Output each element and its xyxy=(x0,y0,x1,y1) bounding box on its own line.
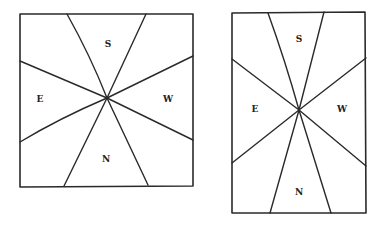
label-s: S xyxy=(105,39,112,49)
rectangle-compass-diagram: S E W N xyxy=(232,12,366,213)
ray-right-upper xyxy=(299,58,366,110)
label-e: E xyxy=(252,104,259,114)
ray-top-left xyxy=(268,13,299,110)
ray-top-right xyxy=(299,12,324,110)
ray-left-upper xyxy=(232,59,299,110)
ray-bottom-left xyxy=(64,98,107,186)
square-compass-diagram: S E W N xyxy=(20,14,193,187)
ray-bottom-right xyxy=(299,110,331,213)
label-s: S xyxy=(296,34,303,44)
label-w: W xyxy=(336,104,348,114)
label-n: N xyxy=(102,154,110,164)
ray-right-lower xyxy=(299,110,366,166)
ray-top-right xyxy=(107,14,146,98)
ray-bottom-right xyxy=(107,98,148,185)
compass-diagrams: S E W N S E W N xyxy=(0,0,385,227)
label-n: N xyxy=(295,187,303,197)
ray-left-lower xyxy=(232,110,299,163)
ray-right-upper xyxy=(107,56,193,98)
label-e: E xyxy=(37,94,44,104)
ray-right-lower xyxy=(107,98,193,140)
label-w: W xyxy=(162,94,174,104)
ray-left-lower xyxy=(20,98,107,142)
ray-bottom-left xyxy=(270,110,299,213)
ray-top-left xyxy=(67,14,107,98)
